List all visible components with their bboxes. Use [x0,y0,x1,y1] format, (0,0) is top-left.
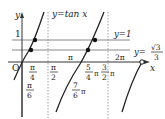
tick-7pi6-pi: π [81,88,86,96]
tick-pi6-num: π [27,81,32,90]
tick-2pi: 2π [115,53,125,62]
tick-pi: π [68,53,73,62]
y-axis-arrow-icon [20,12,24,18]
tick-7pi6-num: 7 [73,81,78,90]
tick-pi2-num: π [51,63,56,72]
line-sqrt3-num: √3 [151,43,161,52]
point-pi4 [33,38,37,42]
x-axis-label: x [150,63,155,73]
tick-5pi4-den: 4 [86,73,91,82]
origin-label: O [12,63,19,73]
tick-pi6-den: 6 [27,91,32,100]
tick-5pi4-pi: π [94,70,99,78]
y-tick-1: 1 [15,29,21,39]
tick-3pi2-den: 2 [102,73,107,82]
tick-7pi6-den: 6 [73,91,78,100]
tan-branch-3 [122,62,142,112]
function-label: y=tan x [51,9,87,19]
point-2pi-open [140,60,144,64]
point-7pi6 [86,48,90,52]
line-y-1-label: y=1 [113,29,131,39]
line-sqrt3-den: 3 [154,53,159,62]
tick-pi4-num: π [30,63,35,72]
tick-3pi2-num: 3 [102,63,107,72]
tick-3pi2-pi: π [110,70,115,78]
tick-pi2-den: 2 [51,73,56,82]
point-5pi4 [93,38,97,42]
line-sqrt3-label: y= [133,47,146,57]
point-pi6 [29,48,33,52]
tan-graph-diagram: y x O 1 y=tan x y=1 2π y= √3 3 π π 4 π 6… [0,0,165,119]
tick-5pi4-num: 5 [86,63,91,72]
y-axis-label: y [14,10,21,20]
